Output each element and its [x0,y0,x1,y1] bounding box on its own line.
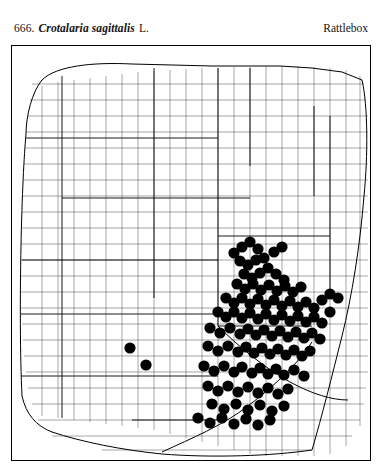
occurrence-dot [272,388,283,399]
occurrence-dot [250,254,261,265]
occurrence-dot [264,414,275,425]
occurrence-dot [214,327,225,338]
occurrence-dot [295,281,306,292]
occurrence-dot [298,370,309,381]
occurrence-dot [204,322,215,333]
occurrence-dot [252,387,263,398]
map-svg [12,46,370,460]
occurrence-dot [288,364,299,375]
occurrence-dot [278,400,289,411]
occurrence-dot [202,380,213,391]
scientific-name: Crotalaria sagittalis [39,22,135,34]
occurrence-dot [198,360,209,371]
occurrence-dot [278,369,289,380]
occurrence-dot [124,342,135,353]
taxon-authority: L. [139,22,149,34]
page-root: 666. Crotalaria sagittalis L. Rattlebox [0,0,382,473]
occurrence-dot [316,317,327,328]
occurrence-dot [192,412,203,423]
county-lines-layer [21,66,368,456]
occurrence-dot [202,340,213,351]
distribution-map [11,45,371,461]
occurrence-dot [222,380,233,391]
occurrence-dot [230,398,241,409]
occurrence-dot [228,418,239,429]
occurrence-dot [140,359,151,370]
occurrence-dot [212,345,223,356]
common-name: Rattlebox [323,22,368,34]
figure-caption: 666. Crotalaria sagittalis L. [14,22,149,34]
occurrence-dot [218,360,229,371]
occurrence-dot [208,365,219,376]
occurrence-dot [276,241,287,252]
page-header: 666. Crotalaria sagittalis L. Rattlebox [0,22,382,40]
occurrence-dot [282,383,293,394]
occurrence-dot [224,322,235,333]
occurrence-dot [204,417,215,428]
occurrence-dot [332,292,343,303]
occurrence-dot [240,413,251,424]
occurrence-dot [236,361,247,372]
occurrence-dot [232,386,243,397]
occurrence-dot [304,345,315,356]
occurrence-dot [254,399,265,410]
occurrence-dot [242,381,253,392]
occurrence-dot [206,398,217,409]
figure-number: 666. [14,22,35,34]
occurrence-dot [212,385,223,396]
occurrence-dot [262,382,273,393]
occurrence-dot [314,333,325,344]
occurrence-dot [222,340,233,351]
occurrence-dot [324,306,335,317]
occurrence-dot [216,412,227,423]
occurrence-dot [252,419,263,430]
